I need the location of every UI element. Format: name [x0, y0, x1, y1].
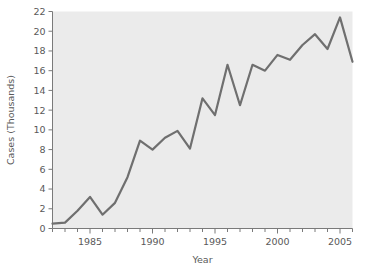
x-axis: 19851990199520002005: [53, 229, 353, 247]
y-tick-label: 16: [33, 65, 45, 76]
y-tick-label: 18: [33, 45, 45, 56]
y-tick-label: 10: [33, 124, 45, 135]
y-tick-label: 0: [39, 223, 45, 234]
chart-figure: 0246810121416182022 19851990199520002005…: [0, 0, 369, 271]
x-tick-label: 1990: [140, 236, 164, 247]
x-axis-title: Year: [191, 254, 212, 265]
y-tick-label: 12: [33, 105, 45, 116]
line-chart: 0246810121416182022 19851990199520002005…: [0, 0, 369, 271]
y-tick-label: 2: [39, 203, 45, 214]
y-tick-label: 20: [33, 26, 45, 37]
y-tick-label: 22: [33, 6, 45, 17]
y-tick-label: 14: [33, 85, 45, 96]
x-tick-label: 1995: [203, 236, 227, 247]
y-axis-title: Cases (Thousands): [5, 75, 16, 165]
x-tick-label: 2005: [328, 236, 352, 247]
y-axis: 0246810121416182022: [33, 6, 52, 234]
x-tick-label: 2000: [265, 236, 289, 247]
plot-area-background: [53, 12, 353, 229]
y-tick-label: 6: [39, 164, 45, 175]
y-tick-label: 8: [39, 144, 45, 155]
y-tick-label: 4: [39, 183, 45, 194]
x-tick-label: 1985: [78, 236, 102, 247]
